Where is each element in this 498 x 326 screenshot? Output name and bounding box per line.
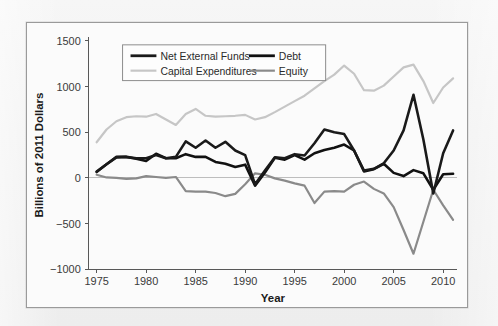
legend-label: Net External Funds	[160, 51, 249, 62]
series-line-debt	[97, 145, 453, 190]
x-axis-tick-label: 1975	[84, 275, 108, 287]
x-axis-tick-label: 1990	[233, 275, 257, 287]
y-axis-tick-label: −1000	[50, 263, 81, 275]
x-axis-title: Year	[261, 292, 286, 304]
legend-label: Capital Expenditures	[160, 66, 256, 77]
series-line-equity	[97, 173, 453, 253]
legend-label: Equity	[279, 66, 309, 77]
y-axis-tick-label: 500	[62, 126, 80, 138]
line-chart: −1000−5000500100015001975198019851990199…	[27, 23, 467, 307]
y-axis-tick-label: 1500	[56, 35, 80, 47]
y-axis-tick-label: 0	[75, 172, 81, 184]
y-axis-tick-label: −500	[56, 218, 81, 230]
x-axis-tick-label: 1985	[183, 275, 207, 287]
x-axis-tick-label: 2005	[382, 275, 406, 287]
x-axis-tick-label: 1995	[282, 275, 306, 287]
x-axis-tick-label: 2010	[431, 275, 455, 287]
legend-label: Debt	[279, 51, 301, 62]
y-axis-title: Billions of 2011 Dollars	[33, 93, 45, 218]
x-axis-tick-label: 1980	[134, 275, 158, 287]
figure-frame: −1000−5000500100015001975198019851990199…	[26, 22, 468, 308]
y-axis-tick-label: 1000	[56, 81, 80, 93]
x-axis-tick-label: 2000	[332, 275, 356, 287]
